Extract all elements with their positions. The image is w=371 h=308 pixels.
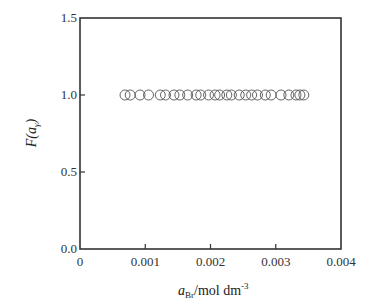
- data-points: [120, 90, 309, 100]
- data-point: [260, 90, 270, 100]
- y-axis-label: F(aγ): [24, 118, 41, 148]
- y-label-post: ): [24, 118, 40, 124]
- data-point: [247, 90, 257, 100]
- y-label-pre: F(: [24, 133, 40, 149]
- scatter-chart: 00.0010.0020.0030.004 0.00.51.01.5 aBr/m…: [0, 0, 371, 308]
- y-tick-label: 0.0: [61, 241, 77, 256]
- x-tick-label: 0: [77, 254, 84, 269]
- y-label-main: a: [24, 127, 39, 134]
- y-tick-label: 0.5: [61, 164, 77, 179]
- plot-frame: [80, 18, 341, 249]
- data-point: [266, 90, 276, 100]
- x-label-main: a: [178, 283, 185, 298]
- x-tick-label: 0.003: [261, 254, 290, 269]
- x-axis-label: aBr/mol dm-3: [178, 281, 249, 300]
- data-point: [175, 90, 185, 100]
- data-point: [252, 90, 262, 100]
- x-label-sup: -3: [241, 281, 249, 291]
- data-point: [241, 90, 251, 100]
- y-axis-ticks: 0.00.51.01.5: [61, 10, 85, 256]
- x-axis-ticks: 00.0010.0020.0030.004: [77, 244, 356, 269]
- y-tick-label: 1.0: [61, 87, 77, 102]
- plot-border: [80, 18, 341, 249]
- x-tick-label: 0.002: [196, 254, 225, 269]
- x-tick-label: 0.004: [326, 254, 356, 269]
- data-point: [276, 90, 286, 100]
- x-tick-label: 0.001: [131, 254, 160, 269]
- x-label-sub: Br: [185, 290, 194, 300]
- x-label-rest: /mol dm: [194, 283, 241, 298]
- y-tick-label: 1.5: [61, 10, 77, 25]
